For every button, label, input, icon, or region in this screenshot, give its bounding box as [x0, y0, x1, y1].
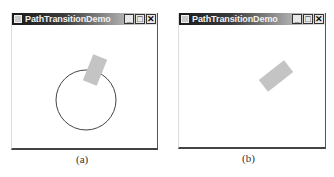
- close-button[interactable]: ✕: [146, 14, 156, 24]
- window-title: PathTransitionDemo: [192, 13, 278, 25]
- window-b: PathTransitionDemo _ □ ✕: [178, 13, 326, 149]
- caption-b: (b): [242, 152, 255, 164]
- maximize-button[interactable]: □: [135, 14, 145, 24]
- maximize-button[interactable]: □: [303, 14, 313, 24]
- app-icon[interactable]: [14, 15, 22, 23]
- title-bar[interactable]: PathTransitionDemo _ □ ✕: [179, 13, 325, 25]
- window-a: PathTransitionDemo _ □ ✕: [11, 13, 158, 150]
- minimize-button[interactable]: _: [124, 14, 134, 24]
- app-icon[interactable]: [181, 15, 189, 23]
- close-button[interactable]: ✕: [314, 14, 324, 24]
- title-bar[interactable]: PathTransitionDemo _ □ ✕: [12, 13, 157, 25]
- scene-pane: [179, 25, 325, 147]
- window-title: PathTransitionDemo: [25, 13, 111, 25]
- minimize-button[interactable]: _: [292, 14, 302, 24]
- window-controls: _ □ ✕: [292, 14, 324, 24]
- scene-svg: [12, 25, 157, 148]
- caption-a: (a): [76, 153, 88, 165]
- moving-rectangle: [259, 60, 293, 92]
- scene-pane: [12, 25, 157, 148]
- window-controls: _ □ ✕: [124, 14, 156, 24]
- scene-svg: [179, 25, 325, 147]
